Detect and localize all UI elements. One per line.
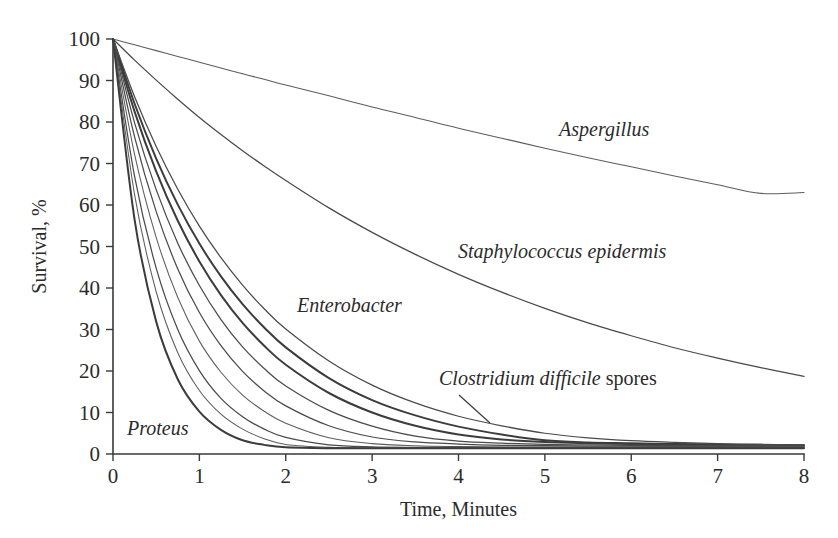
y-tick-label-40: 40 (79, 276, 100, 300)
y-tick-label-100: 100 (69, 27, 101, 51)
x-tick-label-3: 3 (367, 464, 378, 488)
series-label-roman: spores (601, 367, 657, 390)
series-annotations-group: AspergillusStaphylococcus epidermisEnter… (126, 118, 666, 439)
series-label-clostridium: Clostridium difficile spores (439, 367, 657, 390)
x-tick-label-2: 2 (281, 464, 292, 488)
x-tick-label-4: 4 (453, 464, 464, 488)
series-label-proteus: Proteus (126, 417, 189, 439)
x-tick-label-5: 5 (540, 464, 551, 488)
x-tick-label-1: 1 (194, 464, 205, 488)
y-axis-title: Survival, % (28, 199, 50, 293)
y-tick-label-0: 0 (90, 442, 101, 466)
series-label-staph: Staphylococcus epidermis (458, 240, 666, 263)
chart-canvas: 0102030405060708090100012345678 Aspergil… (0, 0, 838, 538)
y-tick-label-90: 90 (79, 69, 100, 93)
curve-staphylococcus-epidermis (113, 39, 804, 376)
y-tick-label-80: 80 (79, 110, 100, 134)
y-tick-label-20: 20 (79, 359, 100, 383)
clostridium-leader-line (459, 395, 490, 423)
curve-aspergillus (113, 39, 804, 194)
y-tick-label-60: 60 (79, 193, 100, 217)
y-tick-label-30: 30 (79, 318, 100, 342)
y-tick-label-70: 70 (79, 152, 100, 176)
x-tick-label-8: 8 (799, 464, 810, 488)
axes-group (106, 39, 804, 461)
series-label-italic: Aspergillus (557, 118, 650, 141)
series-label-italic: Proteus (126, 417, 189, 439)
series-label-aspergillus: Aspergillus (557, 118, 650, 141)
x-tick-label-7: 7 (712, 464, 723, 488)
survival-decay-chart-figure: 0102030405060708090100012345678 Aspergil… (0, 0, 838, 538)
series-label-enterobacter: Enterobacter (296, 294, 402, 316)
x-tick-label-0: 0 (108, 464, 119, 488)
x-axis-title: Time, Minutes (400, 498, 517, 520)
series-label-italic: Staphylococcus epidermis (458, 240, 666, 263)
x-tick-label-6: 6 (626, 464, 637, 488)
series-label-italic: Clostridium difficile (439, 367, 601, 390)
y-tick-label-50: 50 (79, 235, 100, 259)
series-label-italic: Enterobacter (296, 294, 402, 316)
y-tick-label-10: 10 (79, 401, 100, 425)
